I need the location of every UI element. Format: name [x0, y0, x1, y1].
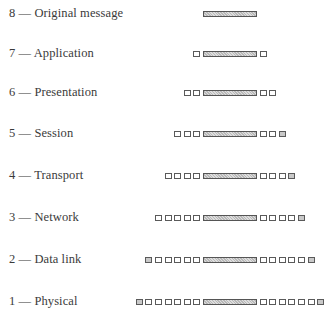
trailer-box [298, 215, 305, 221]
header-box [165, 173, 172, 179]
trailer-box [269, 257, 276, 263]
layer-label: 4 — Transport [9, 168, 83, 183]
layer-label: 2 — Data link [9, 252, 81, 267]
header-box [193, 215, 200, 221]
header-box [165, 299, 172, 305]
layer-label: 1 — Physical [9, 294, 78, 309]
trailer-box [288, 257, 295, 263]
layer-row-presentation: 6 — Presentation [0, 82, 329, 102]
trailer-box [317, 299, 324, 305]
message-bar [203, 215, 257, 221]
packet [145, 256, 317, 263]
message-bar [203, 131, 257, 137]
trailer-box [260, 257, 267, 263]
header-box [165, 215, 172, 221]
header-box [174, 215, 181, 221]
header-box [193, 299, 200, 305]
header-box [184, 131, 191, 137]
layer-label: 8 — Original message [9, 6, 123, 21]
header-box [174, 131, 181, 137]
trailer-box [269, 299, 276, 305]
header-box [155, 215, 162, 221]
header-box [155, 299, 162, 305]
trailer-box [308, 257, 315, 263]
trailer-box [260, 90, 267, 96]
layer-row-session: 5 — Session [0, 123, 329, 143]
packet [165, 172, 298, 179]
trailer-box [260, 215, 267, 221]
message-bar [203, 90, 257, 96]
message-bar [203, 257, 257, 263]
layer-label: 6 — Presentation [9, 85, 97, 100]
header-box [184, 215, 191, 221]
trailer-box [279, 131, 286, 137]
packet [184, 89, 279, 96]
layer-row-data-link: 2 — Data link [0, 249, 329, 269]
header-box [193, 51, 200, 57]
trailer-box [288, 299, 295, 305]
header-box [193, 173, 200, 179]
header-box [155, 257, 162, 263]
trailer-box [308, 299, 315, 305]
trailer-box [288, 173, 295, 179]
trailer-box [288, 215, 295, 221]
message-bar [203, 299, 257, 305]
header-box [174, 299, 181, 305]
packet [174, 130, 288, 137]
trailer-box [260, 173, 267, 179]
trailer-box [269, 173, 276, 179]
trailer-box [279, 299, 286, 305]
message-bar [203, 11, 257, 17]
header-box [174, 173, 181, 179]
layer-row-network: 3 — Network [0, 207, 329, 227]
layer-row-transport: 4 — Transport [0, 165, 329, 185]
trailer-box [298, 257, 305, 263]
header-box [184, 173, 191, 179]
layer-row-physical: 1 — Physical [0, 291, 329, 311]
header-box [193, 257, 200, 263]
trailer-box [269, 131, 276, 137]
header-box [193, 131, 200, 137]
header-box [184, 299, 191, 305]
header-box [145, 299, 152, 305]
packet [193, 50, 269, 57]
trailer-box [298, 299, 305, 305]
trailer-box [279, 257, 286, 263]
trailer-box [279, 215, 286, 221]
header-box [136, 299, 143, 305]
packet [203, 10, 260, 17]
layer-label: 5 — Session [9, 126, 73, 141]
layer-label: 3 — Network [9, 210, 79, 225]
header-box [193, 90, 200, 96]
trailer-box [269, 215, 276, 221]
message-bar [203, 173, 257, 179]
message-bar [203, 51, 257, 57]
packet [155, 214, 308, 221]
header-box [165, 257, 172, 263]
trailer-box [260, 131, 267, 137]
layer-row-application: 7 — Application [0, 43, 329, 63]
packet [136, 298, 327, 305]
header-box [184, 90, 191, 96]
layer-row-original-message: 8 — Original message [0, 3, 329, 23]
layer-label: 7 — Application [9, 46, 94, 61]
trailer-box [260, 299, 267, 305]
header-box [145, 257, 152, 263]
header-box [184, 257, 191, 263]
trailer-box [260, 51, 267, 57]
trailer-box [269, 90, 276, 96]
header-box [174, 257, 181, 263]
trailer-box [279, 173, 286, 179]
